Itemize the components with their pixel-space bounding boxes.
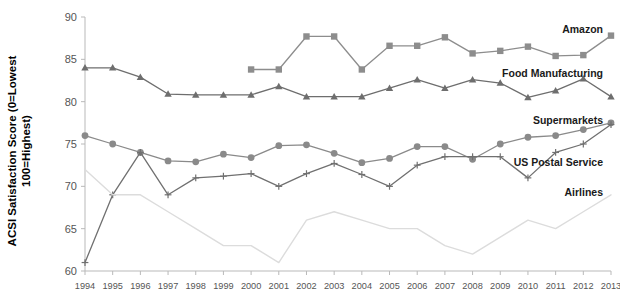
series-label-amazon: Amazon (562, 23, 603, 35)
data-point (275, 142, 282, 149)
data-point (442, 34, 448, 40)
y-tick-label: 90 (65, 11, 77, 23)
data-point (552, 53, 558, 59)
y-axis-ticks: 60657075808590 (65, 11, 85, 277)
x-tick-label: 1994 (75, 281, 95, 291)
x-tick-label: 2009 (490, 281, 510, 291)
x-tick-label: 1996 (130, 281, 150, 291)
x-tick-label: 2001 (269, 281, 289, 291)
data-point (607, 93, 614, 100)
series-line (85, 169, 611, 262)
x-tick-label: 2011 (546, 281, 566, 291)
y-tick-label: 70 (65, 180, 77, 192)
y-tick-label: 85 (65, 53, 77, 65)
data-point (275, 83, 282, 90)
data-point (497, 48, 503, 54)
series-label-usps: US Postal Service (514, 156, 603, 168)
data-point (248, 66, 254, 72)
x-tick-label: 2007 (435, 281, 455, 291)
y-tick-label: 60 (65, 265, 77, 277)
data-point (414, 143, 421, 150)
x-tick-label: 1997 (158, 281, 178, 291)
data-point (359, 66, 365, 72)
data-point (303, 141, 310, 148)
data-point (358, 159, 365, 166)
x-tick-label: 2006 (407, 281, 427, 291)
data-point (303, 33, 309, 39)
data-point (441, 143, 448, 150)
data-point (525, 43, 531, 49)
data-point (165, 158, 172, 165)
data-point (192, 158, 199, 165)
data-point (580, 126, 587, 133)
data-point (552, 132, 559, 139)
data-point (331, 33, 337, 39)
x-tick-label: 2004 (352, 281, 372, 291)
data-point (414, 43, 420, 49)
data-point (580, 52, 586, 58)
x-tick-label: 2013 (601, 281, 620, 291)
data-point (248, 154, 255, 161)
data-point (414, 76, 421, 83)
series-label-supermarkets: Supermarkets (533, 114, 603, 126)
x-tick-label: 2008 (462, 281, 482, 291)
y-tick-label: 80 (65, 96, 77, 108)
data-point (109, 141, 116, 148)
data-point (386, 155, 393, 162)
y-tick-label: 75 (65, 138, 77, 150)
acsi-line-chart: ACSI Satisfaction Score (0=Lowest 100=Hi… (0, 0, 620, 302)
data-point (386, 43, 392, 49)
x-tick-label: 1999 (213, 281, 233, 291)
x-tick-label: 1998 (186, 281, 206, 291)
y-tick-label: 65 (65, 223, 77, 235)
series-line (251, 36, 611, 70)
series-us-postal-service (82, 121, 615, 266)
x-tick-label: 2010 (518, 281, 538, 291)
data-point (276, 66, 282, 72)
data-point (525, 134, 532, 141)
data-point (331, 150, 338, 157)
data-point (608, 32, 614, 38)
x-tick-label: 1995 (102, 281, 122, 291)
data-point (497, 141, 504, 148)
x-tick-label: 2003 (324, 281, 344, 291)
data-point (220, 151, 227, 158)
data-point (469, 76, 476, 83)
x-tick-label: 2012 (573, 281, 593, 291)
plot-area: 60657075808590 1994199519961997199819992… (0, 0, 620, 302)
x-tick-label: 2000 (241, 281, 261, 291)
series-label-airlines: Airlines (564, 186, 603, 198)
x-tick-label: 2002 (296, 281, 316, 291)
series-line (85, 125, 611, 263)
x-axis-ticks: 1994199519961997199819992000200120022003… (75, 271, 620, 291)
data-point (82, 132, 89, 139)
series-label-food-manufacturing: Food Manufacturing (502, 67, 603, 79)
data-point (469, 50, 475, 56)
x-tick-label: 2005 (379, 281, 399, 291)
series-labels: AmazonFood ManufacturingSupermarketsUS P… (502, 23, 603, 198)
series-airlines (85, 169, 611, 262)
